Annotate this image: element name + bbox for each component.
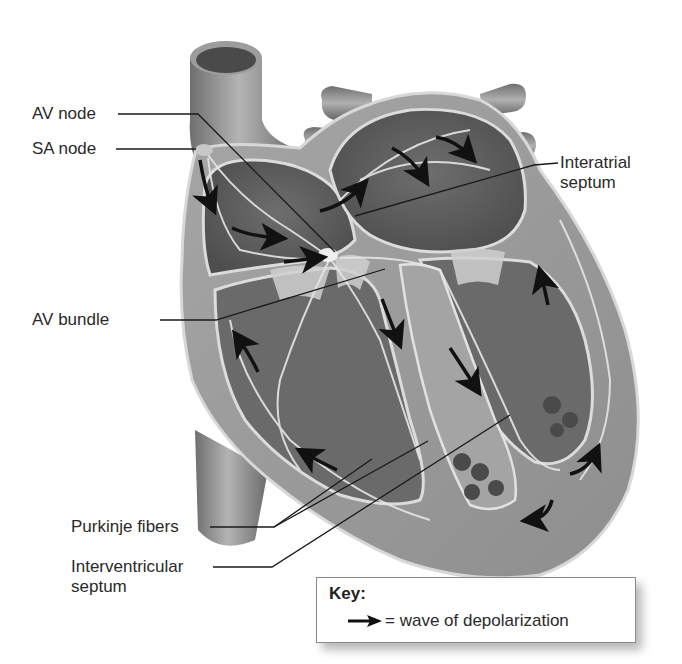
- key-row: = wave of depolarization: [347, 611, 569, 631]
- label-interventricular-line2: septum: [71, 577, 183, 597]
- label-purkinje-fibers: Purkinje fibers: [71, 517, 179, 537]
- label-interatrial-line1: Interatrial: [560, 153, 631, 173]
- legend-key-box: Key: = wave of depolarization: [316, 577, 636, 643]
- label-interatrial-line2: septum: [560, 173, 631, 193]
- label-av-node: AV node: [32, 104, 96, 124]
- label-interventricular-line1: Interventricular: [71, 557, 183, 577]
- key-title: Key:: [329, 584, 366, 604]
- sa-node-structure: [195, 144, 213, 156]
- right-arrow-icon: [347, 614, 383, 628]
- label-interventricular-septum: Interventricular septum: [71, 557, 183, 597]
- av-node-structure: [318, 248, 338, 262]
- label-av-bundle: AV bundle: [32, 310, 109, 330]
- label-sa-node: SA node: [32, 139, 96, 159]
- label-interatrial-septum: Interatrial septum: [560, 153, 631, 193]
- key-description: = wave of depolarization: [385, 611, 569, 631]
